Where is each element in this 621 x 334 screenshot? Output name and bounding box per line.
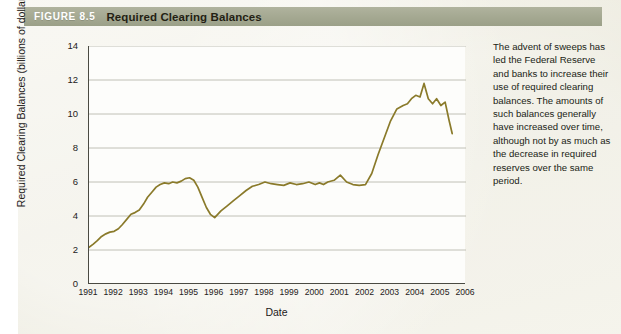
figure-caption-text: The advent of sweeps has led the Federal… (493, 40, 611, 187)
x-axis-title: Date (88, 306, 465, 318)
y-tick-4: 4 (56, 210, 78, 221)
figure-number-label: FIGURE 8.5 (34, 11, 95, 22)
y-tick-2: 2 (56, 244, 78, 255)
y-tick-10: 10 (56, 108, 78, 119)
line-chart (89, 46, 466, 284)
x-tick-2006: 2006 (450, 287, 480, 297)
y-tick-6: 6 (56, 176, 78, 187)
figure-header-bar: FIGURE 8.5 Required Clearing Balances (24, 7, 602, 26)
y-tick-12: 12 (56, 74, 78, 85)
figure-title: Required Clearing Balances (106, 11, 261, 23)
plot-area (88, 46, 465, 284)
figure-root: FIGURE 8.5 Required Clearing Balances Re… (0, 0, 621, 334)
figure-caption: The advent of sweeps has led the Federal… (493, 40, 611, 187)
y-tick-14: 14 (56, 40, 78, 51)
y-tick-8: 8 (56, 142, 78, 153)
y-axis-title: Required Clearing Balances (billions of … (15, 0, 27, 223)
